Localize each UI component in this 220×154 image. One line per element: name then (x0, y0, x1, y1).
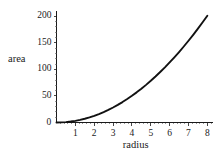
series-line-area (57, 16, 208, 123)
x-tick-label: 1 (73, 129, 78, 139)
data-series-group (57, 16, 208, 123)
y-tick-label: 200 (37, 12, 51, 22)
y-tick-label: 50 (42, 91, 52, 101)
x-tick-label: 2 (92, 129, 97, 139)
x-tick-label: 5 (148, 129, 153, 139)
x-tick-label: 8 (205, 129, 210, 139)
x-tick-label: 3 (111, 129, 116, 139)
origin-tick-label: 0 (47, 118, 52, 128)
y-tick-label: 100 (37, 65, 51, 75)
x-tick-marks (60, 123, 211, 126)
y-axis-title: area (8, 54, 25, 65)
y-tick-label: 150 (37, 38, 51, 48)
x-tick-label: 4 (130, 129, 135, 139)
x-axis-title: radius (123, 140, 149, 151)
x-tick-label: 6 (167, 129, 172, 139)
chart-figure: area radius 0 50100150200 12345678 (0, 0, 220, 154)
x-tick-label: 7 (186, 129, 191, 139)
axes-group (56, 11, 213, 123)
